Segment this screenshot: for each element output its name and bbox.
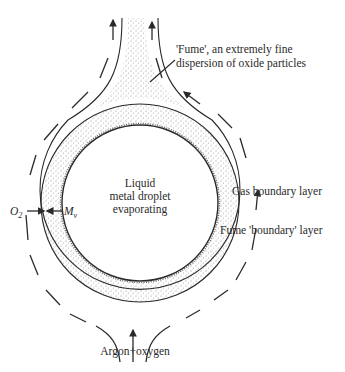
droplet-label-line2: metal droplet [110, 190, 172, 203]
inflow-label: Argon+oxygen [100, 345, 170, 358]
fume-label-line1: 'Fume', an extremely fine [176, 43, 293, 56]
droplet-label-line3: evaporating [113, 203, 168, 216]
fume-boundary-label: Fume 'boundary' layer [220, 224, 323, 237]
gas-boundary-label: Gas boundary layer [232, 185, 322, 198]
droplet-label-line1: Liquid [125, 177, 156, 190]
o2-label: O2 [10, 205, 22, 220]
fume-label-line2: dispersion of oxide particles [176, 57, 307, 70]
fume-formation-diagram: 'Fume', an extremely fine dispersion of … [0, 0, 345, 372]
